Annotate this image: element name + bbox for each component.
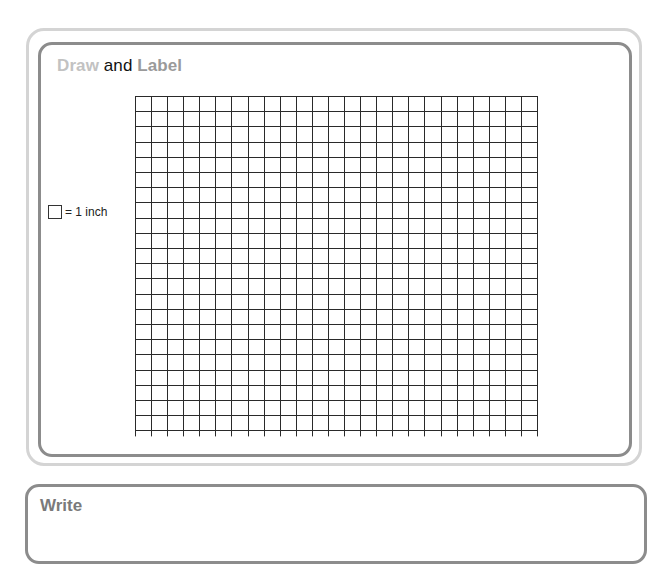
heading-label-word: Label — [137, 56, 182, 75]
draw-and-label-heading: Draw and Label — [57, 56, 182, 76]
scale-legend-text: = 1 inch — [65, 205, 107, 219]
heading-and-word: and — [99, 56, 137, 75]
drawing-grid[interactable] — [135, 96, 539, 438]
scale-legend: = 1 inch — [48, 205, 107, 219]
write-panel[interactable] — [25, 484, 647, 564]
heading-draw-word: Draw — [57, 56, 99, 75]
write-heading: Write — [40, 496, 82, 516]
square-unit-icon — [48, 205, 62, 219]
